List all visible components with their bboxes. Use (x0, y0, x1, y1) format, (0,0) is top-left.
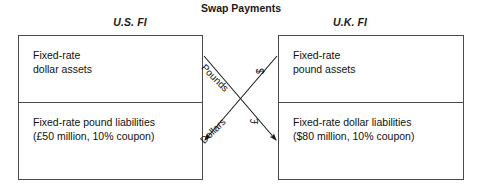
us-assets-cell: Fixed-rate dollar assets (19, 36, 202, 102)
us-fi-box: Fixed-rate dollar assets Fixed-rate poun… (18, 35, 203, 180)
arrow-label-dollar-symbol: $ (255, 68, 266, 74)
uk-assets-cell: Fixed-rate pound assets (279, 36, 463, 102)
swap-payments-diagram: Swap Payments U.S. FI U.K. FI Fixed-rate… (0, 0, 482, 195)
us-assets-text: Fixed-rate dollar assets (33, 48, 92, 76)
uk-fi-box: Fixed-rate pound assets Fixed-rate dolla… (278, 35, 464, 180)
us-liabilities-cell: Fixed-rate pound liabilities (£50 millio… (19, 102, 202, 181)
center-heading: Swap Payments (195, 2, 287, 14)
arrow-label-pound-symbol: £ (249, 118, 260, 124)
uk-assets-text: Fixed-rate pound assets (293, 48, 355, 76)
uk-liabilities-text: Fixed-rate dollar liabilities ($80 milli… (293, 115, 414, 143)
arrow-label-pounds: Pounds (199, 62, 231, 94)
uk-liabilities-cell: Fixed-rate dollar liabilities ($80 milli… (279, 102, 463, 181)
uk-fi-title: U.K. FI (290, 16, 410, 28)
us-liabilities-text: Fixed-rate pound liabilities (£50 millio… (33, 115, 155, 143)
us-fi-title: U.S. FI (70, 16, 190, 28)
